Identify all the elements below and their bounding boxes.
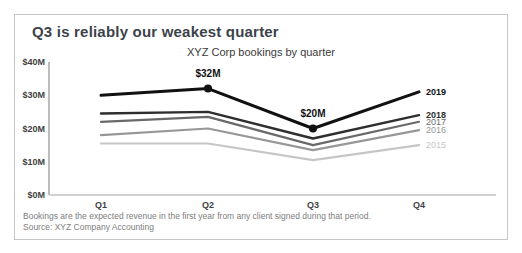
footnote-line2: Source: XYZ Company Accounting xyxy=(23,222,493,233)
footnote-line1: Bookings are the expected revenue in the… xyxy=(23,211,493,222)
footnote: Bookings are the expected revenue in the… xyxy=(23,211,493,233)
y-tick-label: $0M xyxy=(27,190,45,200)
data-point-marker xyxy=(309,125,317,133)
data-point-label: $32M xyxy=(195,68,220,79)
y-tick-label: $40M xyxy=(22,57,45,67)
bookings-line-chart: $40M$30M$20M$10M$0MQ1Q2Q3Q4$32M$20M20192… xyxy=(15,15,509,241)
series-line-2015 xyxy=(101,144,419,161)
y-tick-label: $20M xyxy=(22,124,45,134)
legend-label-2015: 2015 xyxy=(426,140,446,150)
y-tick-label: $10M xyxy=(22,157,45,167)
data-point-marker xyxy=(204,85,212,93)
page: Q3 is reliably our weakest quarter XYZ C… xyxy=(0,0,522,253)
chart-card: Q3 is reliably our weakest quarter XYZ C… xyxy=(14,14,508,240)
series-line-2018 xyxy=(101,112,419,139)
series-line-2019 xyxy=(101,89,419,129)
legend-label-2019: 2019 xyxy=(426,87,446,97)
x-tick-label: Q3 xyxy=(307,200,319,210)
x-tick-label: Q2 xyxy=(202,200,214,210)
data-point-label: $20M xyxy=(300,108,325,119)
series-line-2017 xyxy=(101,117,419,145)
x-tick-label: Q4 xyxy=(413,200,425,210)
legend-label-2016: 2016 xyxy=(426,125,446,135)
y-tick-label: $30M xyxy=(22,90,45,100)
x-tick-label: Q1 xyxy=(95,200,107,210)
